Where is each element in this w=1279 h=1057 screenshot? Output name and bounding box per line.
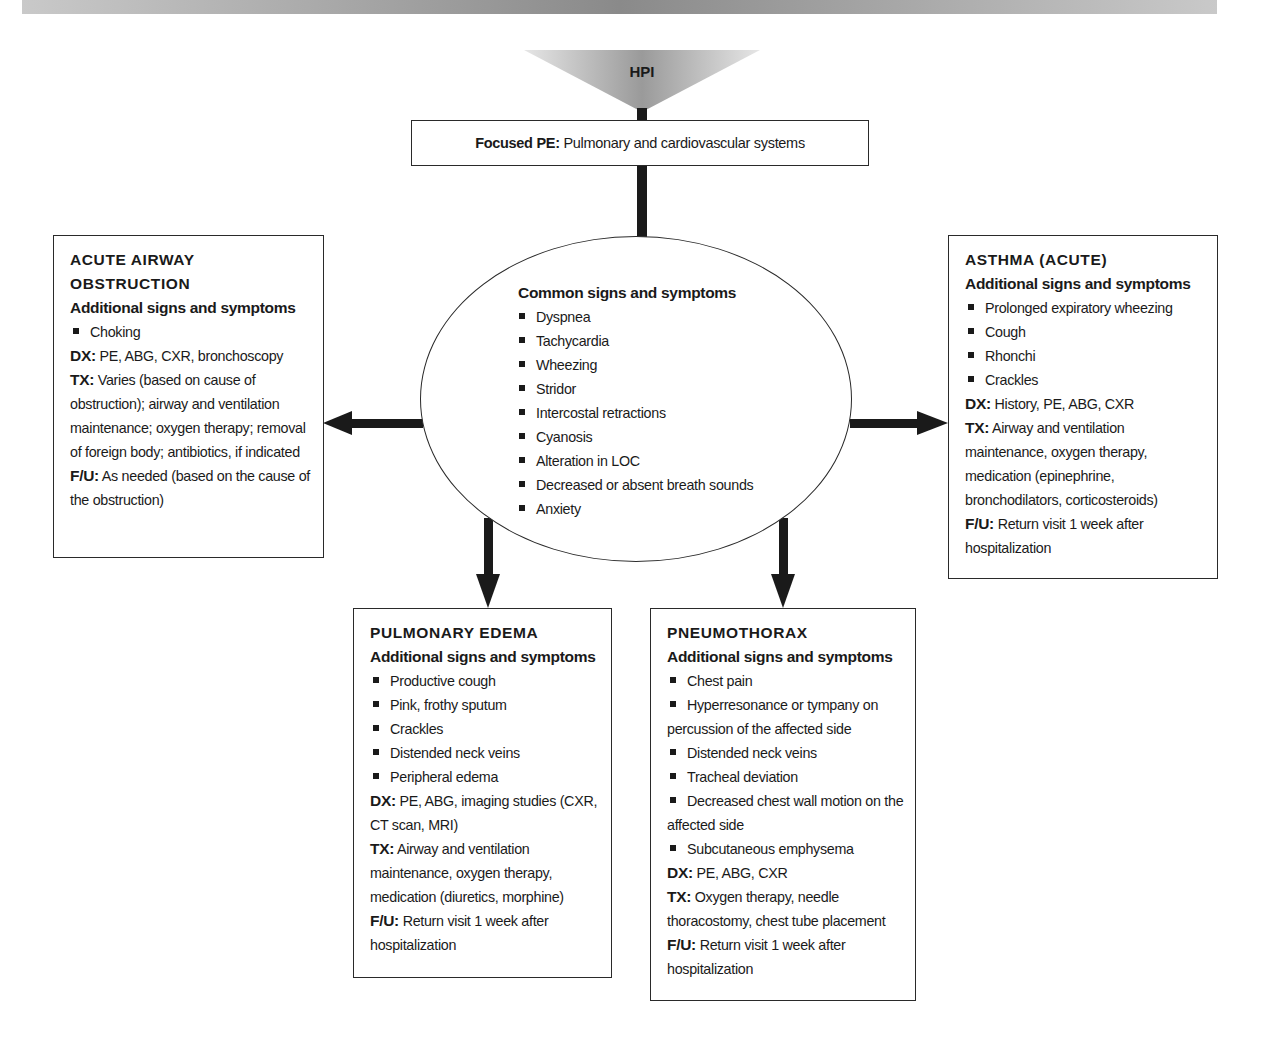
list-item: Anxiety bbox=[518, 497, 753, 521]
focused-pe-text: Pulmonary and cardiovascular systems bbox=[563, 135, 804, 151]
dx-label: DX: bbox=[667, 864, 693, 881]
tx-line: TX: Airway and ventilation maintenance, … bbox=[370, 837, 601, 909]
dx-label: DX: bbox=[965, 395, 991, 412]
tx-label: TX: bbox=[965, 419, 989, 436]
arrow-down-right-icon bbox=[771, 574, 795, 608]
hpi-node: HPI bbox=[524, 50, 760, 112]
fu-label: F/U: bbox=[70, 467, 99, 484]
tx-line: TX: Airway and ventilation maintenance, … bbox=[965, 416, 1207, 512]
pneumothorax-box: PNEUMOTHORAX Additional signs and sympto… bbox=[650, 608, 916, 1001]
list-item: Decreased chest wall motion on the affec… bbox=[667, 789, 905, 837]
arrow-left-icon bbox=[323, 411, 352, 435]
asthma-box: ASTHMA (ACUTE) Additional signs and symp… bbox=[948, 235, 1218, 579]
tx-text: Airway and ventilation maintenance, oxyg… bbox=[965, 420, 1158, 508]
list-item: Hyperresonance or tympany on percussion … bbox=[667, 693, 905, 741]
list-item: Distended neck veins bbox=[370, 741, 601, 765]
list-item: Subcutaneous emphysema bbox=[667, 837, 905, 861]
box-title-line2: OBSTRUCTION bbox=[70, 272, 313, 296]
list-item: Productive cough bbox=[370, 669, 601, 693]
box-subheading: Additional signs and symptoms bbox=[370, 645, 601, 669]
common-signs-list: Dyspnea Tachycardia Wheezing Stridor Int… bbox=[518, 305, 753, 521]
list-item: Chest pain bbox=[667, 669, 905, 693]
dx-line: DX: PE, ABG, imaging studies (CXR, CT sc… bbox=[370, 789, 601, 837]
fu-line: F/U: Return visit 1 week after hospitali… bbox=[965, 512, 1207, 560]
list-item: Stridor bbox=[518, 377, 753, 401]
list-item: Tachycardia bbox=[518, 329, 753, 353]
tx-line: TX: Oxygen therapy, needle thoracostomy,… bbox=[667, 885, 905, 933]
list-item: Prolonged expiratory wheezing bbox=[965, 296, 1207, 320]
fu-line: F/U: Return visit 1 week after hospitali… bbox=[667, 933, 905, 981]
box-title: PNEUMOTHORAX bbox=[667, 621, 905, 645]
sign-list: Choking bbox=[70, 320, 313, 344]
list-item: Wheezing bbox=[518, 353, 753, 377]
list-item: Tracheal deviation bbox=[667, 765, 905, 789]
box-title: ACUTE AIRWAY bbox=[70, 248, 313, 272]
list-item: Cyanosis bbox=[518, 425, 753, 449]
list-item: Peripheral edema bbox=[370, 765, 601, 789]
fu-label: F/U: bbox=[370, 912, 399, 929]
sign-list: Productive cough Pink, frothy sputum Cra… bbox=[370, 669, 601, 789]
list-item: Pink, frothy sputum bbox=[370, 693, 601, 717]
hpi-label: HPI bbox=[524, 63, 760, 80]
tx-line: TX: Varies (based on cause of obstructio… bbox=[70, 368, 313, 464]
box-title: ASTHMA (ACUTE) bbox=[965, 248, 1207, 272]
fu-text: As needed (based on the cause of the obs… bbox=[70, 468, 310, 508]
pulmonary-edema-box: PULMONARY EDEMA Additional signs and sym… bbox=[353, 608, 612, 978]
dx-label: DX: bbox=[370, 792, 396, 809]
list-item: Decreased or absent breath sounds bbox=[518, 473, 753, 497]
dx-label: DX: bbox=[70, 347, 96, 364]
acute-airway-obstruction-box: ACUTE AIRWAY OBSTRUCTION Additional sign… bbox=[53, 235, 324, 558]
list-item: Distended neck veins bbox=[667, 741, 905, 765]
dx-line: DX: PE, ABG, CXR, bronchoscopy bbox=[70, 344, 313, 368]
arrow-down-left-icon bbox=[476, 574, 500, 608]
list-item: Alteration in LOC bbox=[518, 449, 753, 473]
dx-text: PE, ABG, CXR bbox=[696, 865, 787, 881]
fu-line: F/U: Return visit 1 week after hospitali… bbox=[370, 909, 601, 957]
dx-text: History, PE, ABG, CXR bbox=[994, 396, 1134, 412]
fu-line: F/U: As needed (based on the cause of th… bbox=[70, 464, 313, 512]
dx-text: PE, ABG, CXR, bronchoscopy bbox=[99, 348, 283, 364]
tx-label: TX: bbox=[70, 371, 94, 388]
focused-pe-box: Focused PE: Pulmonary and cardiovascular… bbox=[411, 120, 869, 166]
common-signs-heading: Common signs and symptoms bbox=[518, 281, 753, 305]
arrow-right-icon bbox=[917, 411, 948, 435]
box-subheading: Additional signs and symptoms bbox=[70, 296, 313, 320]
list-item: Intercostal retractions bbox=[518, 401, 753, 425]
list-item: Crackles bbox=[370, 717, 601, 741]
common-signs-content: Common signs and symptoms Dyspnea Tachyc… bbox=[518, 281, 753, 521]
list-item: Rhonchi bbox=[965, 344, 1207, 368]
sign-list: Prolonged expiratory wheezing Cough Rhon… bbox=[965, 296, 1207, 392]
dx-text: PE, ABG, imaging studies (CXR, CT scan, … bbox=[370, 793, 597, 833]
fu-label: F/U: bbox=[965, 515, 994, 532]
box-subheading: Additional signs and symptoms bbox=[965, 272, 1207, 296]
sign-list: Chest pain Hyperresonance or tympany on … bbox=[667, 669, 905, 861]
list-item: Crackles bbox=[965, 368, 1207, 392]
tx-text: Oxygen therapy, needle thoracostomy, che… bbox=[667, 889, 885, 929]
dx-line: DX: PE, ABG, CXR bbox=[667, 861, 905, 885]
tx-text: Airway and ventilation maintenance, oxyg… bbox=[370, 841, 564, 905]
focused-pe-label: Focused PE: bbox=[475, 135, 560, 151]
list-item: Cough bbox=[965, 320, 1207, 344]
box-title: PULMONARY EDEMA bbox=[370, 621, 601, 645]
tx-text: Varies (based on cause of obstruction); … bbox=[70, 372, 306, 460]
fu-label: F/U: bbox=[667, 936, 696, 953]
tx-label: TX: bbox=[370, 840, 394, 857]
tx-label: TX: bbox=[667, 888, 691, 905]
list-item: Choking bbox=[70, 320, 313, 344]
box-subheading: Additional signs and symptoms bbox=[667, 645, 905, 669]
list-item: Dyspnea bbox=[518, 305, 753, 329]
dx-line: DX: History, PE, ABG, CXR bbox=[965, 392, 1207, 416]
